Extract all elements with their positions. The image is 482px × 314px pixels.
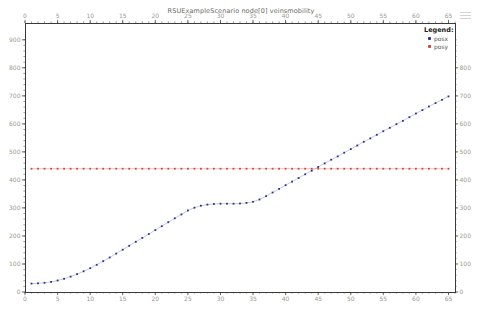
legend-title: Legend: bbox=[424, 27, 454, 34]
svg-text:0: 0 bbox=[17, 288, 21, 295]
svg-text:500: 500 bbox=[9, 148, 21, 155]
svg-text:400: 400 bbox=[9, 176, 21, 183]
svg-text:50: 50 bbox=[347, 295, 355, 302]
svg-text:300: 300 bbox=[460, 204, 472, 211]
svg-text:20: 20 bbox=[151, 12, 159, 19]
svg-text:10: 10 bbox=[86, 12, 94, 19]
svg-text:800: 800 bbox=[460, 64, 472, 71]
legend-item-posx: posx bbox=[424, 35, 454, 42]
plot-canvas: 0055101015152020252530303535404045455050… bbox=[0, 0, 482, 314]
svg-text:55: 55 bbox=[379, 12, 387, 19]
svg-text:0: 0 bbox=[460, 288, 464, 295]
svg-text:50: 50 bbox=[347, 12, 355, 19]
svg-text:10: 10 bbox=[86, 295, 94, 302]
svg-text:60: 60 bbox=[412, 295, 420, 302]
posx-marker-icon bbox=[428, 37, 431, 40]
svg-text:65: 65 bbox=[445, 295, 453, 302]
svg-text:45: 45 bbox=[314, 295, 322, 302]
svg-text:500: 500 bbox=[460, 148, 472, 155]
svg-text:200: 200 bbox=[9, 232, 21, 239]
svg-text:60: 60 bbox=[412, 12, 420, 19]
svg-text:0: 0 bbox=[23, 295, 27, 302]
svg-text:600: 600 bbox=[460, 120, 472, 127]
svg-text:55: 55 bbox=[379, 295, 387, 302]
svg-text:300: 300 bbox=[9, 204, 21, 211]
svg-text:700: 700 bbox=[460, 92, 472, 99]
svg-text:600: 600 bbox=[9, 120, 21, 127]
svg-text:40: 40 bbox=[282, 12, 290, 19]
svg-text:45: 45 bbox=[314, 12, 322, 19]
svg-text:35: 35 bbox=[249, 295, 257, 302]
svg-text:100: 100 bbox=[9, 260, 21, 267]
svg-text:5: 5 bbox=[56, 12, 60, 19]
svg-text:5: 5 bbox=[56, 295, 60, 302]
svg-text:15: 15 bbox=[119, 295, 127, 302]
svg-text:65: 65 bbox=[445, 12, 453, 19]
svg-text:900: 900 bbox=[9, 36, 21, 43]
svg-text:25: 25 bbox=[184, 12, 192, 19]
svg-text:25: 25 bbox=[184, 295, 192, 302]
svg-text:200: 200 bbox=[460, 232, 472, 239]
svg-text:20: 20 bbox=[151, 295, 159, 302]
svg-text:800: 800 bbox=[9, 64, 21, 71]
legend: Legend: posx posy bbox=[424, 27, 454, 50]
legend-item-label: posy bbox=[434, 43, 448, 50]
legend-item-posy: posy bbox=[424, 43, 454, 50]
posy-marker-icon bbox=[428, 45, 431, 48]
svg-text:30: 30 bbox=[217, 295, 225, 302]
svg-text:100: 100 bbox=[460, 260, 472, 267]
svg-text:30: 30 bbox=[217, 12, 225, 19]
chart-window: RSUExampleScenario node[0] veinsmobility… bbox=[0, 0, 482, 314]
svg-text:35: 35 bbox=[249, 12, 257, 19]
svg-text:15: 15 bbox=[119, 12, 127, 19]
svg-text:0: 0 bbox=[23, 12, 27, 19]
legend-item-label: posx bbox=[434, 35, 448, 42]
svg-text:700: 700 bbox=[9, 92, 21, 99]
svg-text:40: 40 bbox=[282, 295, 290, 302]
svg-text:400: 400 bbox=[460, 176, 472, 183]
